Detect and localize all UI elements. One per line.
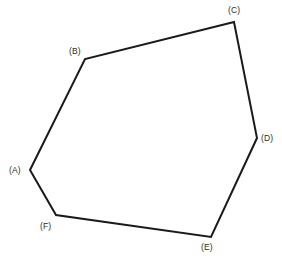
vertex-label-b: (B)	[69, 46, 81, 56]
vertex-label-a: (A)	[9, 165, 21, 175]
hexagon-outline	[30, 22, 257, 237]
vertex-label-e: (E)	[201, 242, 213, 252]
vertex-label-f: (F)	[40, 221, 51, 231]
vertex-label-d: (D)	[261, 133, 273, 143]
vertex-label-c: (C)	[228, 5, 240, 15]
figure-canvas: (A) (B) (C) (D) (E) (F)	[0, 0, 282, 263]
